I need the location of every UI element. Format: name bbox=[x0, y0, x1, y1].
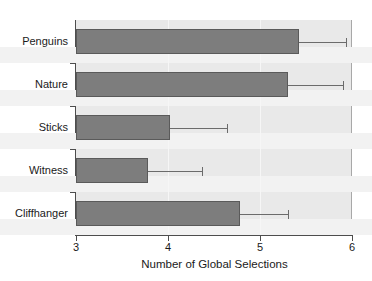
y-axis-category-label: Cliffhanger bbox=[15, 208, 68, 219]
error-bar-cap bbox=[227, 124, 228, 133]
y-axis-category-label: Witness bbox=[29, 165, 68, 176]
error-bar-line bbox=[148, 171, 202, 172]
error-bar-cap bbox=[288, 210, 289, 219]
error-bar-cap bbox=[346, 38, 347, 47]
bar bbox=[76, 72, 288, 97]
bar bbox=[76, 201, 240, 226]
y-axis-tick bbox=[70, 192, 75, 193]
bar bbox=[76, 158, 148, 183]
bar bbox=[76, 29, 299, 54]
error-bar-line bbox=[288, 85, 343, 86]
error-bar-cap bbox=[343, 81, 344, 90]
x-axis-tick-label: 4 bbox=[165, 242, 171, 253]
y-axis-category-label: Penguins bbox=[22, 36, 68, 47]
x-axis-line bbox=[76, 235, 353, 236]
y-axis-category-label: Sticks bbox=[39, 122, 68, 133]
bar bbox=[76, 115, 170, 140]
error-bar-line bbox=[299, 42, 347, 43]
background-band bbox=[0, 133, 372, 149]
x-axis-tick-label: 5 bbox=[257, 242, 263, 253]
y-axis-tick bbox=[70, 63, 75, 64]
x-axis-tick-label: 6 bbox=[349, 242, 355, 253]
error-bar-cap bbox=[202, 167, 203, 176]
x-axis-tick-label: 3 bbox=[73, 242, 79, 253]
y-axis-tick bbox=[70, 106, 75, 107]
background-band bbox=[0, 176, 372, 192]
bar-chart: PenguinsNatureSticksWitnessCliffhanger 3… bbox=[0, 0, 372, 281]
error-bar-line bbox=[170, 128, 227, 129]
y-axis-tick bbox=[70, 149, 75, 150]
y-axis-category-label: Nature bbox=[35, 79, 68, 90]
error-bar-line bbox=[240, 214, 288, 215]
x-axis-title: Number of Global Selections bbox=[76, 258, 353, 270]
